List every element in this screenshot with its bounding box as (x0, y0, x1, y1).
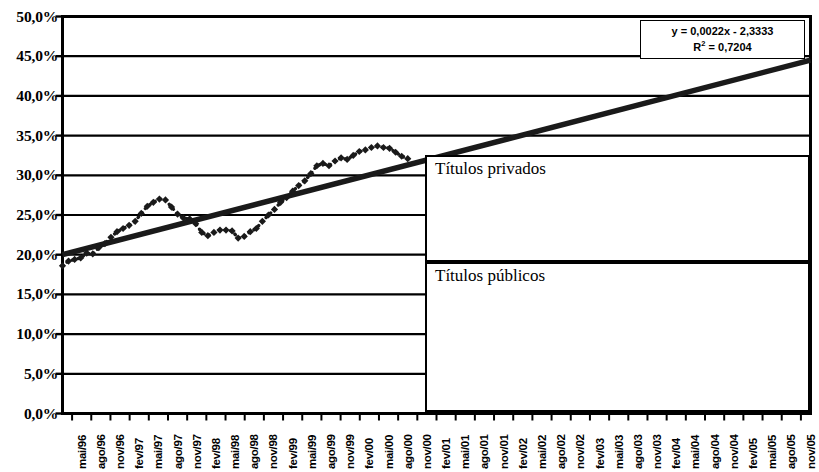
x-axis-tick-label: ago/02 (556, 434, 568, 469)
x-axis-tick-label: ago/05 (786, 434, 798, 469)
x-axis-tick-label: mai/05 (767, 434, 779, 468)
x-axis-tick-label: fev/99 (288, 438, 300, 469)
r2-exponent: 2 (701, 39, 705, 48)
x-axis-tick-label: mai/03 (614, 434, 626, 468)
x-axis-tick-label: nov/03 (652, 434, 664, 469)
x-axis-tick-label: nov/96 (115, 434, 127, 469)
x-axis-tick-label: nov/01 (499, 434, 511, 469)
x-axis-tick-label: nov/98 (268, 434, 280, 469)
annotation-label-titulos-privados: Títulos privados (435, 160, 546, 179)
x-axis-tick-label: fev/05 (748, 438, 760, 469)
trendline-equation-text: y = 0,0022x - 2,3333 (647, 24, 798, 39)
x-axis-tick-label: nov/97 (192, 434, 204, 469)
x-axis-tick-label: mai/98 (230, 434, 242, 468)
x-axis-tick-label: nov/05 (806, 434, 818, 469)
x-axis-tick-label: fev/97 (134, 438, 146, 469)
trendline-equation-box: y = 0,0022x - 2,3333 R2 = 0,7204 (640, 20, 805, 59)
x-axis-tick-label: fev/00 (364, 438, 376, 469)
x-axis-tick-label: mai/04 (690, 434, 702, 468)
x-axis-tick-label: ago/03 (633, 434, 645, 469)
x-axis-tick-label: ago/97 (173, 434, 185, 469)
annotation-box-titulos-publicos: Títulos públicos (425, 262, 810, 412)
x-axis-tick-label: fev/02 (518, 438, 530, 469)
x-axis-tick-label: mai/02 (537, 434, 549, 468)
x-axis-tick-label: fev/01 (441, 438, 453, 469)
x-axis-tick-label: fev/03 (595, 438, 607, 469)
x-axis-tick-label: ago/99 (326, 434, 338, 469)
x-axis-tick-label: ago/98 (249, 434, 261, 469)
x-axis-tick-label: mai/97 (153, 434, 165, 468)
chart-root: 0,0%5,0%10,0%15,0%20,0%25,0%30,0%35,0%40… (0, 0, 819, 472)
x-axis-tick-label: nov/04 (729, 434, 741, 469)
x-axis-tick-label: ago/96 (96, 434, 108, 469)
annotation-box-titulos-privados: Títulos privados (425, 155, 810, 262)
x-axis-tick-label: ago/04 (710, 434, 722, 469)
r2-value: = 0,7204 (709, 41, 752, 53)
x-axis-tick-label: fev/98 (211, 438, 223, 469)
x-axis-tick-label: ago/01 (479, 434, 491, 469)
x-axis-tick-label: ago/00 (403, 434, 415, 469)
x-axis-tick-label: mai/99 (307, 434, 319, 468)
x-axis-tick-label: fev/04 (671, 438, 683, 469)
x-axis-tick-label: nov/00 (422, 434, 434, 469)
x-axis-tick-label: mai/96 (77, 434, 89, 468)
trendline-r2-text: R2 = 0,7204 (647, 39, 798, 55)
annotation-label-titulos-publicos: Títulos públicos (435, 267, 545, 286)
x-axis-tick-label: mai/00 (384, 434, 396, 468)
x-axis-tick-label: nov/02 (575, 434, 587, 469)
x-axis-tick-label: nov/99 (345, 434, 357, 469)
x-axis-tick-label: mai/01 (460, 434, 472, 468)
